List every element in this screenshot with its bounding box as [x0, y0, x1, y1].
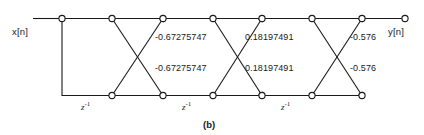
node-top-3 — [160, 15, 166, 21]
node-bottom-6 — [359, 92, 365, 98]
node-bottom-1 — [109, 92, 115, 98]
figure-caption: (b) — [203, 120, 215, 130]
delay-label-3: z-1 — [281, 101, 290, 112]
node-top-4 — [210, 15, 216, 21]
input-signal-label: x[n] — [12, 27, 28, 37]
graph-edges — [33, 19, 405, 96]
output-signal-label: y[n] — [388, 27, 404, 37]
delay-exp-1: -1 — [85, 100, 91, 108]
node-bottom-4 — [259, 92, 265, 98]
delay-exp-2: -1 — [186, 100, 192, 108]
node-top-1 — [59, 15, 65, 21]
node-bottom-3 — [210, 92, 216, 98]
node-top-2 — [109, 15, 115, 21]
coefficient-stage1-upper: -0.67275747 — [155, 33, 207, 42]
node-output — [402, 15, 408, 21]
node-top-7 — [359, 15, 365, 21]
figure-container: x[n] y[n] -0.67275747 -0.67275747 0.1819… — [0, 0, 424, 135]
coefficient-stage3-upper: -0.576 — [350, 33, 376, 42]
delay-label-2: z-1 — [182, 101, 191, 112]
edge-input-tap-to-bottom — [62, 19, 112, 96]
delay-exp-3: -1 — [285, 100, 291, 108]
delay-label-1: z-1 — [81, 101, 90, 112]
coefficient-stage3-lower: -0.576 — [350, 64, 376, 73]
node-top-6 — [309, 15, 315, 21]
coefficient-stage2-lower: 0.18197491 — [245, 64, 294, 73]
node-top-5 — [259, 15, 265, 21]
coefficient-stage2-upper: 0.18197491 — [245, 33, 294, 42]
node-bottom-5 — [309, 92, 315, 98]
coefficient-stage1-lower: -0.67275747 — [155, 64, 207, 73]
node-bottom-2 — [160, 92, 166, 98]
